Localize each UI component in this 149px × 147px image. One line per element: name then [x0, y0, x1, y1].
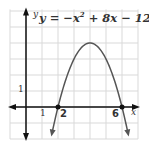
root-point: [120, 105, 125, 110]
y-axis-label: y: [33, 9, 38, 19]
y-axis-down-arrow-icon: [23, 133, 29, 141]
x-axis-left-arrow-icon: [8, 104, 16, 110]
x-unit-label: 1: [40, 108, 46, 118]
equation-label: y = −x2 + 8x − 12: [39, 10, 149, 25]
root-label-6: 6: [112, 108, 119, 119]
x-axis-label: x: [131, 107, 136, 117]
curve-arrow-icon: [124, 129, 130, 136]
curve-arrow-icon: [50, 129, 56, 136]
root-label-2: 2: [60, 108, 67, 119]
y-unit-label: 1: [18, 84, 24, 94]
